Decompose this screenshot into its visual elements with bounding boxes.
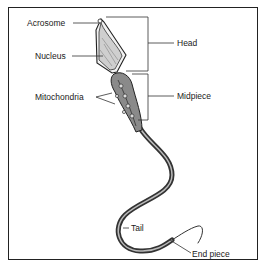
head-shape [96, 19, 126, 73]
leader-lines [72, 17, 191, 253]
label-end-piece: End piece [192, 250, 230, 259]
label-nucleus: Nucleus [35, 52, 66, 61]
label-mitochondria: Mitochondria [35, 93, 84, 102]
label-head: Head [177, 39, 197, 48]
label-midpiece: Midpiece [177, 92, 211, 101]
label-tail: Tail [131, 224, 144, 233]
label-acrosome: Acrosome [27, 19, 65, 28]
midpiece-shape [111, 73, 142, 132]
